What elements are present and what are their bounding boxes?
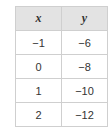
table-row: 0 −8 xyxy=(16,55,108,79)
cell-x: 0 xyxy=(16,55,62,79)
xy-value-table: x y −1 −6 0 −8 1 −10 2 −12 xyxy=(15,6,108,127)
xy-table-container: x y −1 −6 0 −8 1 −10 2 −12 xyxy=(15,6,108,127)
cell-y: −8 xyxy=(62,55,108,79)
header-row: x y xyxy=(16,7,108,31)
cell-x: 1 xyxy=(16,79,62,103)
cell-y: −10 xyxy=(62,79,108,103)
cell-y: −12 xyxy=(62,103,108,127)
table-row: −1 −6 xyxy=(16,31,108,55)
table-row: 2 −12 xyxy=(16,103,108,127)
header-x: x xyxy=(16,7,62,31)
header-y: y xyxy=(62,7,108,31)
cell-y: −6 xyxy=(62,31,108,55)
table-row: 1 −10 xyxy=(16,79,108,103)
cell-x: 2 xyxy=(16,103,62,127)
cell-x: −1 xyxy=(16,31,62,55)
